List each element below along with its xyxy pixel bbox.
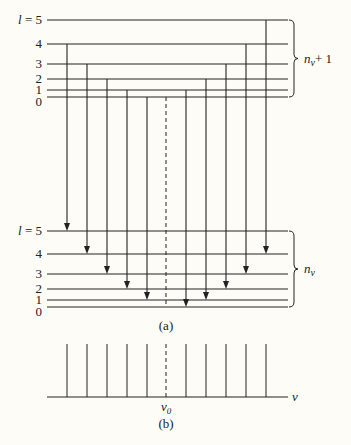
transition-arrow-arrowhead-icon — [64, 223, 70, 231]
upper-level-label: l = 5 — [18, 12, 42, 27]
lower-brace-label: nv — [304, 261, 316, 278]
upper-brace — [289, 20, 298, 97]
transition-arrow-arrowhead-icon — [243, 266, 249, 274]
transition-arrow-arrowhead-icon — [183, 299, 189, 307]
transition-arrow-arrowhead-icon — [104, 266, 110, 274]
lower-level-label: l = 5 — [18, 223, 42, 238]
transition-arrow-arrowhead-icon — [124, 281, 130, 289]
lower-level-label: 3 — [36, 266, 43, 281]
transition-arrow-arrowhead-icon — [84, 246, 90, 254]
transition-arrow-arrowhead-icon — [203, 292, 209, 300]
upper-level-label: 0 — [36, 94, 43, 109]
axis-label-frequency: v — [292, 389, 298, 404]
caption-a: (a) — [159, 318, 173, 333]
transition-arrow-arrowhead-icon — [223, 281, 229, 289]
upper-level-label: 3 — [36, 56, 43, 71]
transition-arrow-arrowhead-icon — [263, 246, 269, 254]
lower-level-label: 4 — [36, 246, 43, 261]
transition-arrow-arrowhead-icon — [144, 292, 150, 300]
lower-level-label: 0 — [36, 304, 43, 319]
energy-level-diagram: l = 543210l = 543210nv+ 1nv(a)v0v(b) — [0, 0, 351, 445]
upper-brace-label: nv+ 1 — [304, 51, 332, 68]
center-frequency-label: v0 — [161, 399, 172, 416]
caption-b: (b) — [158, 416, 173, 431]
upper-level-label: 4 — [36, 36, 43, 51]
lower-brace — [289, 231, 298, 307]
